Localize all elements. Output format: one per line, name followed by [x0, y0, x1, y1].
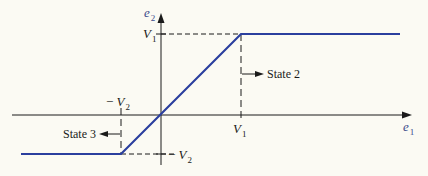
y-axis-label: e2 [144, 6, 155, 19]
neg-v2-x-tick-label: − V2 [106, 95, 130, 108]
v1-y-tick-label: V1 [143, 27, 156, 40]
state2-label: State 2 [267, 68, 300, 80]
v1-x-tick-label: V1 [233, 122, 246, 135]
transfer-characteristic-plot [0, 0, 428, 176]
state3-arrow-icon [99, 131, 108, 137]
y-axis-arrow-icon [158, 13, 165, 23]
x-axis-arrow-icon [402, 112, 412, 119]
x-axis-label: e1 [403, 120, 414, 133]
state3-label: State 3 [63, 128, 96, 140]
neg-v2-y-tick-label: − V2 [168, 148, 192, 161]
state2-arrow-icon [255, 71, 264, 77]
